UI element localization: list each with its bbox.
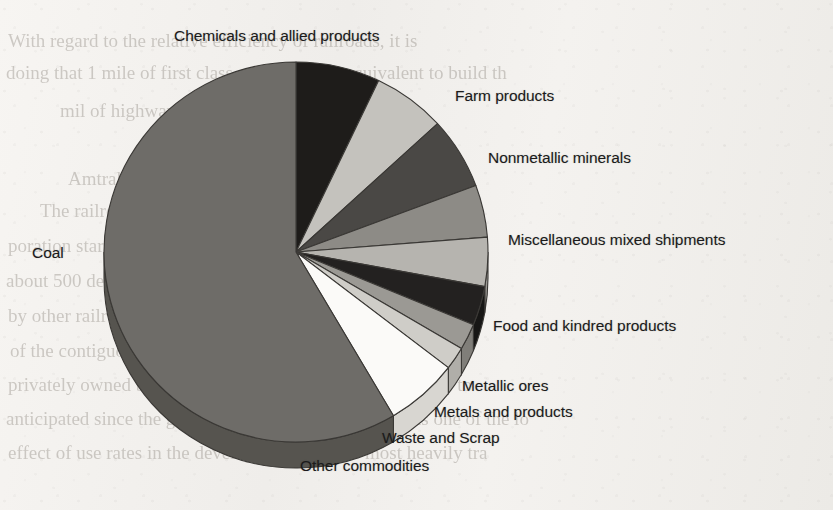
label-nonmetallic-minerals: Nonmetallic minerals <box>488 150 631 166</box>
label-food-and-kindred-products: Food and kindred products <box>493 318 676 334</box>
label-other-commodities: Other commodities <box>300 458 429 474</box>
label-metallic-ores: Metallic ores <box>462 378 548 394</box>
pie-chart: Chemicals and allied productsFarm produc… <box>0 0 833 510</box>
pie-top-face-group: Chemicals and allied productsFarm produc… <box>104 62 488 442</box>
label-miscellaneous-mixed-shipments: Miscellaneous mixed shipments <box>508 232 725 248</box>
label-metals-and-products: Metals and products <box>434 404 573 420</box>
label-coal: Coal <box>32 245 64 261</box>
label-waste-and-scrap: Waste and Scrap <box>382 430 500 446</box>
label-farm-products: Farm products <box>455 88 554 104</box>
label-chemicals-and-allied-products: Chemicals and allied products <box>174 28 379 44</box>
